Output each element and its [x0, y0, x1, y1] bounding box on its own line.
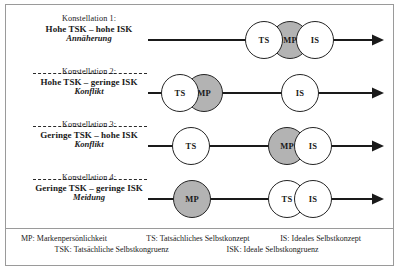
node-label: TS [175, 88, 186, 98]
constellation-diagram: Konstellation 1: Hohe TSK – hohe ISK Ann… [5, 4, 394, 266]
node-is-row-1: IS [296, 21, 334, 59]
node-label: MP [185, 194, 199, 204]
node-label: MP [197, 88, 211, 98]
node-mp-row-4: MP [173, 180, 211, 218]
constellation-row-2: Konstellation 2: Hohe TSK – geringe ISK … [6, 67, 393, 119]
node-ts-row-3: TS [172, 127, 210, 165]
legend-row-2: TSK: Tatsächliche Selbstkongruenz ISK: I… [6, 244, 393, 255]
node-is-row-4: IS [294, 180, 332, 218]
constellation-row-4: Konstellation 4: Geringe TSK – geringe I… [6, 173, 393, 225]
node-ts-row-1: TS [245, 21, 283, 59]
legend-divider [6, 228, 393, 229]
constellation-row-1: Konstellation 1: Hohe TSK – hohe ISK Ann… [6, 14, 393, 66]
node-label: MP [283, 35, 297, 45]
node-label: IS [309, 141, 317, 151]
node-is-row-2: IS [281, 74, 319, 112]
node-label: TS [259, 35, 270, 45]
node-ts-row-2: TS [161, 74, 199, 112]
legend-item-is: IS: Ideales Selbstkonzept [280, 233, 393, 244]
legend-item-tsk: TSK: Tatsächliche Selbstkongruenz [13, 244, 227, 255]
node-label: IS [311, 35, 319, 45]
legend-item-isk: ISK: Ideale Selbstkongruenz [227, 244, 387, 255]
legend: MP: Markenpersönlichkeit TS: Tatsächlich… [6, 233, 393, 256]
node-label: TS [186, 141, 197, 151]
node-label: MP [280, 141, 294, 151]
node-is-row-3: IS [294, 127, 332, 165]
node-label: TS [282, 194, 293, 204]
constellation-1-arrow [6, 14, 395, 66]
constellation-row-3: Konstellation 3: Geringe TSK – hohe ISK … [6, 120, 393, 172]
node-label: IS [309, 194, 317, 204]
legend-row-1: MP: Markenpersönlichkeit TS: Tatsächlich… [6, 233, 393, 244]
legend-item-mp: MP: Markenpersönlichkeit [6, 233, 146, 244]
node-label: IS [296, 88, 304, 98]
legend-item-ts: TS: Tatsächliches Selbstkonzept [146, 233, 280, 244]
